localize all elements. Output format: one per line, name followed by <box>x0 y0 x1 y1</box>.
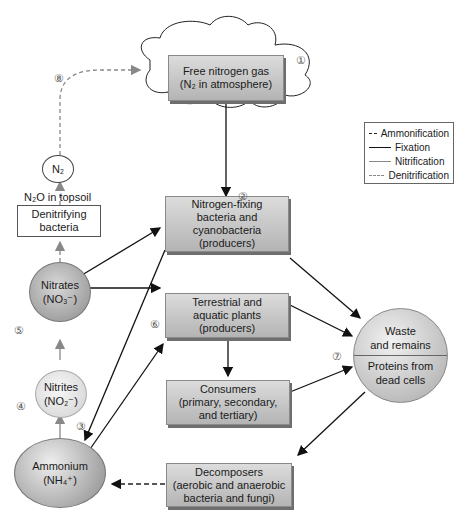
denitrifying-bacteria-box: Denitrifying bacteria <box>17 205 101 237</box>
nitrogen-fixing-box: Nitrogen-fixing bacteria and cyanobacter… <box>165 196 289 252</box>
decomposers-line3: bacteria and fungi) <box>167 492 291 505</box>
n2o-label: N₂O in topsoil <box>24 191 91 203</box>
decomposers-line2: (aerobic and anaerobic <box>167 479 291 492</box>
n2-circle: N₂ <box>42 155 74 183</box>
gray-dashed-line-icon <box>369 175 384 176</box>
gray-line-icon <box>369 161 391 162</box>
plants-box: Terrestrial and aquatic plants (producer… <box>165 293 289 338</box>
legend-fixation: Fixation <box>369 140 449 154</box>
waste-line2: and remains <box>354 338 447 352</box>
decomposers-line1: Decomposers <box>167 466 291 479</box>
nf-line2: bacteria and <box>166 211 288 224</box>
dashed-line-icon <box>369 133 377 134</box>
plants-line3: (producers) <box>166 322 288 335</box>
step-3: ③ <box>76 420 86 433</box>
ammonium-label: Ammonium <box>15 459 105 473</box>
legend-denitrification: Denitrification <box>369 168 449 182</box>
waste-line1: Waste <box>354 324 447 338</box>
legend-label: Nitrification <box>395 156 444 167</box>
n2-label: N₂ <box>43 162 73 176</box>
nitrates-formula: (NO₃⁻) <box>30 292 90 306</box>
nitrites-formula: (NO₂⁻) <box>36 394 86 408</box>
ammonium-formula: (NH₄⁺) <box>15 473 105 487</box>
legend: Ammonification Fixation Nitrification De… <box>364 122 454 184</box>
denitrifying-line2: bacteria <box>18 221 100 234</box>
waste-divider <box>354 355 447 356</box>
nitrites-oval: Nitrites (NO₂⁻) <box>35 370 87 418</box>
legend-ammonification: Ammonification <box>369 126 449 140</box>
step-8: ⑧ <box>54 72 64 85</box>
consumers-line2: (primary, secondary, <box>167 396 289 409</box>
step-7: ⑦ <box>332 350 342 363</box>
proteins-line2: dead cells <box>354 373 447 387</box>
proteins-line1: Proteins from <box>354 359 447 373</box>
plants-line1: Terrestrial and <box>166 296 288 309</box>
solid-line-icon <box>369 147 391 148</box>
nitrates-oval: Nitrates (NO₃⁻) <box>29 262 91 322</box>
step-5: ⑤ <box>14 324 24 337</box>
free-nitrogen-gas-box: Free nitrogen gas (N₂ in atmosphere) <box>168 55 284 101</box>
waste-sphere: Waste and remains Proteins from dead cel… <box>353 308 448 403</box>
nf-line3: cyanobacteria <box>166 224 288 237</box>
legend-nitrification: Nitrification <box>369 154 449 168</box>
step-1: ① <box>296 54 306 67</box>
step-6: ⑥ <box>150 318 160 331</box>
ammonium-oval: Ammonium (NH₄⁺) <box>14 438 106 508</box>
denitrifying-line1: Denitrifying <box>18 208 100 221</box>
nitrites-label: Nitrites <box>36 380 86 394</box>
step-4: ④ <box>16 400 26 413</box>
nf-line1: Nitrogen-fixing <box>166 198 288 211</box>
free-nitrogen-sublabel: (N₂ in atmosphere) <box>169 78 283 91</box>
plants-line2: aquatic plants <box>166 309 288 322</box>
step-2: ② <box>238 190 248 203</box>
legend-label: Denitrification <box>388 170 449 181</box>
consumers-box: Consumers (primary, secondary, and terti… <box>166 380 290 425</box>
nitrates-label: Nitrates <box>30 278 90 292</box>
nf-line4: (producers) <box>166 237 288 250</box>
free-nitrogen-label: Free nitrogen gas <box>169 65 283 78</box>
legend-label: Ammonification <box>381 128 449 139</box>
consumers-line1: Consumers <box>167 383 289 396</box>
decomposers-box: Decomposers (aerobic and anaerobic bacte… <box>166 463 292 507</box>
consumers-line3: and tertiary) <box>167 409 289 422</box>
legend-label: Fixation <box>395 142 430 153</box>
